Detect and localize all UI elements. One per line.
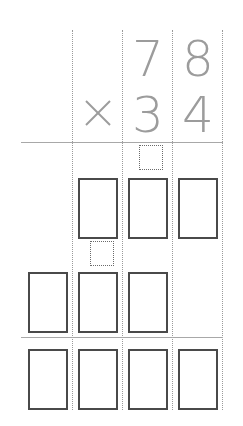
column-divider xyxy=(172,30,173,410)
problem-underline xyxy=(21,142,223,143)
column-divider xyxy=(122,30,123,410)
multiply-operator-icon xyxy=(84,99,112,127)
carry-box[interactable] xyxy=(90,241,114,266)
product-hundreds-box[interactable] xyxy=(78,349,118,410)
carry-box[interactable] xyxy=(139,145,163,170)
partial-product-1-tens-box[interactable] xyxy=(128,178,168,239)
product-ones-box[interactable] xyxy=(178,349,218,410)
multiplicand-ones-digit: 8 xyxy=(173,34,223,84)
column-divider xyxy=(72,30,73,410)
sum-underline xyxy=(21,337,223,338)
partial-product-1-hundreds-box[interactable] xyxy=(78,178,118,239)
multiplier-ones-digit: 4 xyxy=(173,90,223,140)
product-thousands-box[interactable] xyxy=(28,349,68,410)
partial-product-2-hundreds-box[interactable] xyxy=(78,272,118,333)
partial-product-2-tens-box[interactable] xyxy=(128,272,168,333)
multiplier-tens-digit: 3 xyxy=(123,90,173,140)
partial-product-2-thousands-box[interactable] xyxy=(28,272,68,333)
multiplicand-tens-digit: 7 xyxy=(123,34,173,84)
partial-product-1-ones-box[interactable] xyxy=(178,178,218,239)
product-tens-box[interactable] xyxy=(128,349,168,410)
column-divider xyxy=(222,30,223,410)
